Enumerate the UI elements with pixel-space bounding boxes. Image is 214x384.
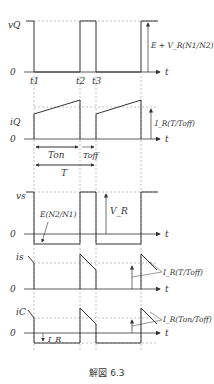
zero-label-vq: 0 <box>10 67 16 77</box>
labels: vQ 0 t1 t2 t3 t E + V_R(N1/N2) iQ 0 t I_… <box>8 20 213 344</box>
t-axis-label: t <box>165 284 169 294</box>
is-label: is <box>16 252 24 262</box>
ic-label: iC <box>16 307 26 317</box>
vr-label: V_R <box>110 206 128 217</box>
t-axis-label: t <box>165 67 169 77</box>
period-label: T <box>61 168 68 178</box>
ir-offset-label: I_R <box>47 335 61 344</box>
vq-label: vQ <box>8 20 21 30</box>
is-panel <box>24 254 162 289</box>
vs-negative-label: E(N2/N1) <box>39 210 77 219</box>
ic-panel <box>24 308 162 343</box>
zero-label-iq: 0 <box>10 134 16 144</box>
zero-label-ic: 0 <box>10 328 16 338</box>
is-amplitude-label: I_R(T/Toff) <box>162 268 203 277</box>
zero-label-is: 0 <box>10 284 16 294</box>
ton-label: Ton <box>48 150 65 160</box>
vq-amplitude-label: E + V_R(N1/N2) <box>150 41 213 50</box>
toff-label: Toff <box>83 151 100 160</box>
ic-amplitude-label: I_R(Ton/Toff) <box>162 315 212 324</box>
zero-label-vs: 0 <box>10 229 16 239</box>
t-axis-label: t <box>165 134 169 144</box>
iq-label: iQ <box>10 117 21 127</box>
t1-label: t1 <box>30 76 39 86</box>
t-axis-label: t <box>165 328 169 338</box>
t2-label: t2 <box>76 76 86 86</box>
vs-label: vs <box>16 191 26 201</box>
t3-label: t3 <box>92 76 102 86</box>
iq-amplitude-label: I_R(T/Toff) <box>154 119 195 128</box>
figure-caption: 解図 6.3 <box>0 366 214 379</box>
waveform-diagram: vQ 0 t1 t2 t3 t E + V_R(N1/N2) iQ 0 t I_… <box>0 0 214 384</box>
t-axis-label: t <box>165 229 169 239</box>
vq-panel <box>24 21 160 72</box>
